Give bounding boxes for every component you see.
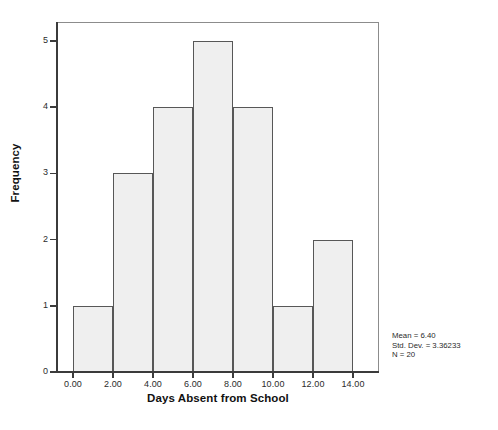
y-axis-line bbox=[56, 22, 58, 372]
x-tick-label: 10.00 bbox=[251, 379, 295, 389]
stat-mean: Mean = 6.40 bbox=[392, 331, 461, 341]
y-tick-mark bbox=[50, 106, 57, 108]
histogram-bar bbox=[73, 306, 113, 372]
x-tick-mark bbox=[272, 372, 274, 378]
y-tick-label: 5 bbox=[34, 35, 48, 45]
histogram-bars bbox=[57, 22, 379, 372]
y-tick-mark bbox=[50, 40, 57, 42]
y-tick-mark bbox=[50, 305, 57, 307]
x-axis-line bbox=[50, 371, 379, 373]
x-tick-label: 0.00 bbox=[51, 379, 95, 389]
y-tick-label: 3 bbox=[34, 167, 48, 177]
x-tick-label: 14.00 bbox=[331, 379, 375, 389]
histogram-bar bbox=[113, 173, 153, 372]
x-tick-mark bbox=[152, 372, 154, 378]
y-tick-mark bbox=[50, 239, 57, 241]
x-tick-mark bbox=[72, 372, 74, 378]
x-tick-mark bbox=[112, 372, 114, 378]
histogram-bar bbox=[313, 240, 353, 372]
x-axis-title: Days Absent from School bbox=[57, 392, 379, 404]
y-tick-label: 0 bbox=[34, 366, 48, 376]
histogram-bar bbox=[233, 107, 273, 372]
x-tick-label: 6.00 bbox=[171, 379, 215, 389]
histogram-bar bbox=[273, 306, 313, 372]
x-tick-mark bbox=[312, 372, 314, 378]
x-tick-mark bbox=[232, 372, 234, 378]
x-tick-label: 12.00 bbox=[291, 379, 335, 389]
x-tick-label: 4.00 bbox=[131, 379, 175, 389]
x-tick-mark bbox=[192, 372, 194, 378]
x-tick-label: 2.00 bbox=[91, 379, 135, 389]
y-tick-mark bbox=[50, 173, 57, 175]
statistics-annotation: Mean = 6.40 Std. Dev. = 3.36233 N = 20 bbox=[392, 331, 461, 360]
y-tick-label: 1 bbox=[34, 300, 48, 310]
histogram-bar bbox=[193, 41, 233, 372]
y-tick-mark bbox=[50, 371, 57, 373]
y-tick-label: 4 bbox=[34, 101, 48, 111]
stat-std-dev: Std. Dev. = 3.36233 bbox=[392, 341, 461, 351]
y-axis-title: Frequency bbox=[9, 128, 21, 218]
stat-n: N = 20 bbox=[392, 350, 461, 360]
histogram-chart: 0.002.004.006.008.0010.0012.0014.00 0123… bbox=[0, 0, 498, 430]
y-tick-label: 2 bbox=[34, 234, 48, 244]
histogram-bar bbox=[153, 107, 193, 372]
x-tick-label: 8.00 bbox=[211, 379, 255, 389]
x-tick-mark bbox=[352, 372, 354, 378]
